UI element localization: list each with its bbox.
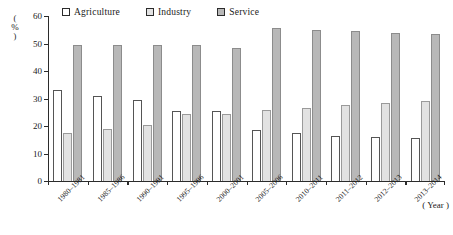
bar-agriculture [292,133,301,181]
bar-group [167,16,207,181]
bar-service [153,45,162,181]
x-label-cell: 2012–2013 [366,183,406,235]
legend-swatch-agriculture [62,8,70,16]
y-tick-label: 50 [33,39,42,49]
bar-agriculture [133,100,142,181]
bar-chart: Agriculture Industry Service ( % ) 01020… [0,0,453,235]
x-label-cell: 1995–1996 [167,183,207,235]
bar-group [405,16,445,181]
bar-agriculture [53,90,62,181]
legend-swatch-service [217,8,225,16]
x-label-cell: 1980–1981 [48,183,88,235]
bar-industry [63,133,72,181]
y-tick-label: 60 [33,11,42,21]
bar-industry [222,114,231,181]
bar-group [366,16,406,181]
x-label-cell: 2010–2011 [286,183,326,235]
bar-industry [143,125,152,181]
bar-industry [262,110,271,182]
legend-swatch-industry [146,8,154,16]
bar-service [113,45,122,181]
bar-service [351,31,360,181]
plot-area: 0102030405060 [48,16,445,181]
bar-service [192,45,201,181]
bar-industry [421,101,430,181]
bar-agriculture [252,130,261,181]
bar-group [326,16,366,181]
bar-agriculture [212,111,221,181]
bar-agriculture [371,137,380,181]
bar-group [207,16,247,181]
y-tick-label: 30 [33,94,42,104]
x-label-cell: 2000–2001 [207,183,247,235]
x-label-cell: 1990–1991 [127,183,167,235]
bar-industry [302,108,311,181]
bar-service [232,48,241,181]
x-label-cell: 2005–2006 [247,183,287,235]
bar-group [88,16,128,181]
bar-service [73,45,82,181]
bar-group [48,16,88,181]
bar-industry [103,129,112,181]
y-tick-label: 20 [33,121,42,131]
bar-group [286,16,326,181]
y-tick-label: 10 [33,149,42,159]
bar-group [127,16,167,181]
bar-agriculture [172,111,181,181]
x-axis-title: ( Year ) [422,200,449,210]
bar-service [272,28,281,181]
bar-service [431,34,440,181]
bar-industry [341,105,350,181]
bar-industry [381,103,390,181]
bar-service [312,30,321,181]
bar-service [391,33,400,182]
bar-industry [182,114,191,181]
bar-groups [48,16,445,181]
bar-group [247,16,287,181]
bar-agriculture [331,136,340,181]
y-unit-close-paren: ) [9,32,21,41]
y-tick-label: 40 [33,66,42,76]
y-axis-unit-label: ( % ) [9,14,21,40]
x-axis-labels: 1980–19811985–19861990–19911995–19962000… [48,183,445,235]
x-label-cell: 1985–1986 [88,183,128,235]
bar-agriculture [411,138,420,181]
bar-agriculture [93,96,102,181]
y-tick-label: 0 [38,176,43,186]
x-label-cell: 2011–2012 [326,183,366,235]
